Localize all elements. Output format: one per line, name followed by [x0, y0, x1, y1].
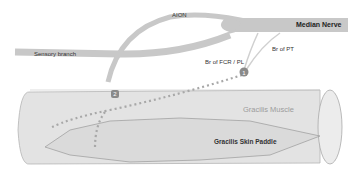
nerve-transfer-diagram: 1 2 AION Median Nerve Sensory branch Br …: [0, 0, 364, 170]
gracilis-skin-paddle-label: Gracilis Skin Paddle: [214, 138, 277, 145]
br-fcr-pl-label: Br of FCR / PL: [205, 59, 245, 65]
muscle-end-cap: [318, 90, 342, 164]
sensory-branch-label: Sensory branch: [34, 51, 76, 57]
marker-1: 1: [240, 68, 249, 77]
br-pt-label: Br of PT: [272, 46, 294, 52]
gracilis-muscle-label: Gracilis Muscle: [243, 105, 294, 114]
median-nerve-label: Median Nerve: [296, 21, 342, 28]
aion-label: AION: [172, 12, 187, 18]
br-fcr-pl-nerve: [244, 33, 258, 70]
marker-2: 2: [111, 90, 119, 98]
